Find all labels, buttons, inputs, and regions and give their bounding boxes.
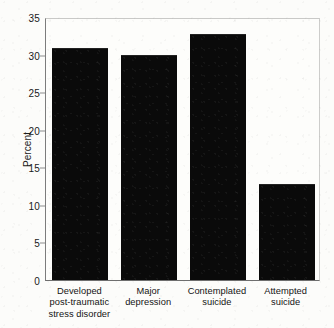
y-tick-label: 0 xyxy=(0,276,45,287)
y-tick-label: 30 xyxy=(0,50,45,61)
x-axis-category-line: stress disorder xyxy=(45,309,114,320)
x-axis-category-line: Contemplated xyxy=(183,286,252,297)
y-tick-label: 20 xyxy=(0,125,45,136)
x-axis-category-line: Attempted xyxy=(251,286,320,297)
y-tick-label: 10 xyxy=(0,200,45,211)
y-tick-label: 35 xyxy=(0,13,45,24)
y-tick-label: 5 xyxy=(0,238,45,249)
y-tick-label: 25 xyxy=(0,88,45,99)
x-axis-category-label: Attemptedsuicide xyxy=(251,286,320,309)
bars-layer xyxy=(46,19,319,280)
bar xyxy=(52,48,108,280)
x-axis-category-line: suicide xyxy=(251,297,320,308)
bar xyxy=(121,55,177,280)
y-axis-ticks: 05101520253035 xyxy=(0,0,45,328)
plot-area xyxy=(45,18,320,281)
x-axis-category-label: Developedpost-traumaticstress disorder xyxy=(45,286,114,320)
x-axis-category-line: suicide xyxy=(183,297,252,308)
x-axis-category-line: depression xyxy=(114,297,183,308)
y-tick-label: 15 xyxy=(0,163,45,174)
x-axis-category-line: Major xyxy=(114,286,183,297)
bar xyxy=(190,34,246,280)
x-axis-category-line: Developed xyxy=(45,286,114,297)
x-axis-category-line: post-traumatic xyxy=(45,297,114,308)
bar xyxy=(259,184,315,280)
x-axis-labels: Developedpost-traumaticstress disorderMa… xyxy=(45,286,320,328)
x-axis-category-label: Majordepression xyxy=(114,286,183,309)
bar-chart: Percent 05101520253035 Developedpost-tra… xyxy=(0,0,334,328)
x-axis-category-label: Contemplatedsuicide xyxy=(183,286,252,309)
